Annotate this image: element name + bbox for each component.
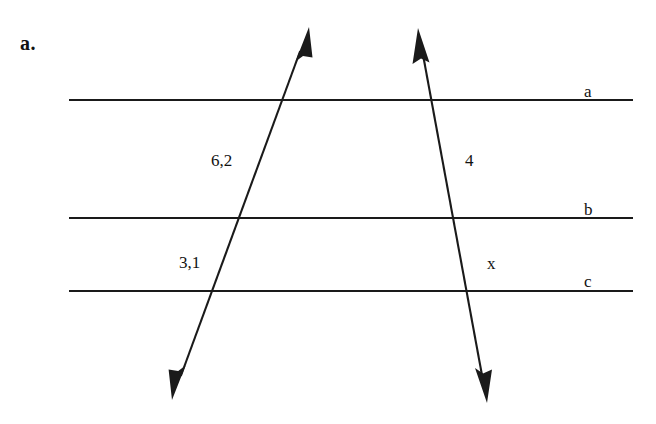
problem-letter: a.	[20, 33, 36, 53]
segment-label-lower-right: x	[487, 255, 496, 272]
segment-label-lower-left: 3,1	[179, 254, 200, 271]
parallel-line-b-label: b	[584, 201, 593, 218]
segment-label-upper-right: 4	[465, 152, 474, 169]
geometry-figure	[0, 0, 656, 424]
parallel-line-a-label: a	[584, 83, 592, 100]
segment-label-upper-left: 6,2	[211, 152, 232, 169]
figure-background	[0, 0, 656, 424]
parallel-line-c-label: c	[584, 273, 592, 290]
